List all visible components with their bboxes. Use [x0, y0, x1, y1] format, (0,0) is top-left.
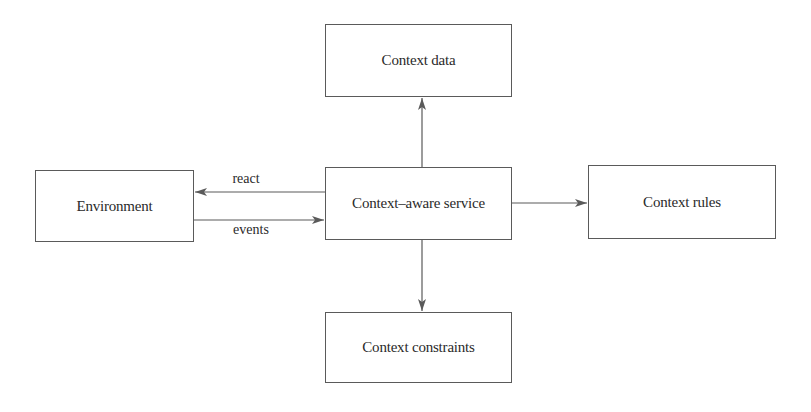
node-context-data: Context data [325, 24, 512, 97]
node-context-aware-service: Context–aware service [325, 167, 512, 240]
edge-label-events: events [233, 222, 269, 238]
node-environment: Environment [35, 170, 194, 242]
diagram-canvas: Context data Environment Context–aware s… [0, 0, 811, 412]
node-context-rules: Context rules [588, 165, 776, 239]
node-label: Context data [382, 52, 456, 69]
node-label: Environment [76, 198, 152, 215]
node-context-constraints: Context constraints [325, 312, 512, 383]
node-label: Context–aware service [352, 195, 485, 212]
edge-label-react: react [232, 171, 259, 187]
node-label: Context rules [643, 194, 721, 211]
node-label: Context constraints [362, 339, 474, 356]
